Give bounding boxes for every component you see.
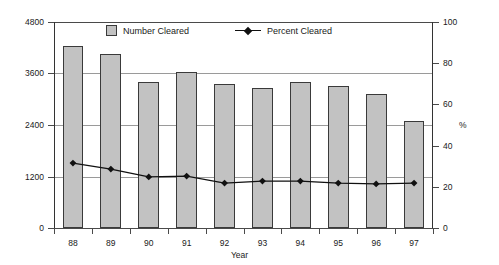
y-tick-label-0: 0 <box>0 223 44 233</box>
y-tick-mark-1200 <box>48 177 54 178</box>
bar-89 <box>100 54 121 228</box>
y2-tick-mark-60 <box>433 104 439 105</box>
x-tick-label-89: 89 <box>91 238 131 248</box>
bar-95 <box>328 86 349 228</box>
x-tick-mark-9 <box>395 228 396 234</box>
x-tick-label-91: 91 <box>167 238 207 248</box>
chart-container: 4800 3600 2400 1200 0 100 80 60 40 20 0 … <box>0 0 499 265</box>
x-axis-title: Year <box>0 250 499 260</box>
y-tick-label-2400: 2400 <box>0 120 44 130</box>
x-tick-mark-7 <box>319 228 320 234</box>
y2-tick-label-0: 0 <box>443 223 473 233</box>
bar-swatch-icon <box>106 25 117 36</box>
x-tick-mark-4 <box>206 228 207 234</box>
x-tick-mark-3 <box>168 228 169 234</box>
y2-tick-label-60: 60 <box>443 99 473 109</box>
y-tick-mark-2400 <box>48 125 54 126</box>
legend-item-percent-cleared: Percent Cleared <box>235 25 332 36</box>
bar-92 <box>214 84 235 228</box>
x-tick-mark-5 <box>244 228 245 234</box>
x-tick-label-94: 94 <box>280 238 320 248</box>
bar-96 <box>366 94 387 228</box>
bar-90 <box>138 82 159 228</box>
y2-tick-mark-100 <box>433 22 439 23</box>
y-tick-mark-4800 <box>48 22 54 23</box>
bar-93 <box>252 88 273 228</box>
y2-tick-mark-40 <box>433 146 439 147</box>
y-tick-label-4800: 4800 <box>0 17 44 27</box>
x-tick-mark-1 <box>92 228 93 234</box>
x-tick-label-93: 93 <box>242 238 282 248</box>
bar-88 <box>63 46 84 228</box>
x-tick-label-88: 88 <box>53 238 93 248</box>
chart-legend: Number Cleared Percent Cleared <box>106 25 332 36</box>
y-tick-label-1200: 1200 <box>0 172 44 182</box>
y2-tick-label-80: 80 <box>443 58 473 68</box>
legend-diamond-marker-icon <box>244 26 252 34</box>
x-tick-mark-8 <box>357 228 358 234</box>
y2-tick-label-40: 40 <box>443 141 473 151</box>
x-tick-label-95: 95 <box>318 238 358 248</box>
x-tick-label-96: 96 <box>356 238 396 248</box>
x-tick-mark-2 <box>130 228 131 234</box>
bar-97 <box>404 121 425 228</box>
y2-tick-mark-20 <box>433 187 439 188</box>
x-tick-label-90: 90 <box>129 238 169 248</box>
legend-label-percent-cleared: Percent Cleared <box>267 26 332 36</box>
x-axis-title-text: Year <box>231 250 248 260</box>
x-tick-label-97: 97 <box>394 238 434 248</box>
y2-tick-label-20: 20 <box>443 182 473 192</box>
x-tick-mark-10 <box>433 228 434 234</box>
legend-label-number-cleared: Number Cleared <box>123 26 189 36</box>
bar-94 <box>290 82 311 228</box>
bar-91 <box>176 72 197 228</box>
y2-axis-unit-label: % <box>459 120 467 130</box>
line-diamond-swatch-icon <box>235 25 261 36</box>
legend-item-number-cleared: Number Cleared <box>106 25 189 36</box>
x-tick-mark-6 <box>281 228 282 234</box>
y-tick-mark-3600 <box>48 73 54 74</box>
y2-tick-label-100: 100 <box>443 17 473 27</box>
x-tick-label-92: 92 <box>205 238 245 248</box>
x-tick-mark-0 <box>54 228 55 234</box>
y-tick-label-3600: 3600 <box>0 68 44 78</box>
y2-tick-mark-80 <box>433 63 439 64</box>
